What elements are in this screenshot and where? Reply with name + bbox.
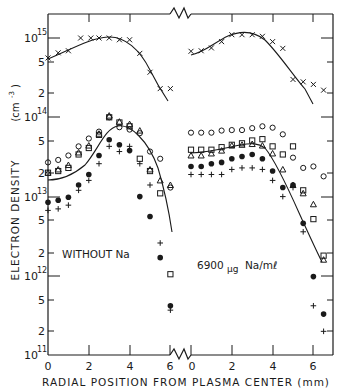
data-point [250,126,255,131]
data-point [219,128,224,133]
data-point [280,152,285,157]
data-point [311,82,316,87]
data-point [300,229,306,235]
data-point [188,164,194,170]
data-point [127,144,133,150]
data-point [66,153,71,158]
y-axis-title: ELECTRON DENSITY [9,160,21,281]
data-point [270,125,275,130]
data-point [239,127,244,132]
data-markers [45,32,327,334]
svg-text:10: 10 [24,111,38,124]
data-point [76,182,82,188]
series-right-open-triangle [188,141,327,262]
data-point [199,130,204,135]
svg-text:5: 5 [38,135,45,148]
data-point [158,86,163,91]
data-point [76,144,81,149]
data-point [229,167,235,173]
data-point [260,124,265,129]
svg-text:μg: μg [227,264,238,274]
data-point [117,149,123,155]
svg-text:10: 10 [24,191,38,204]
data-point [219,160,225,166]
data-point [168,86,173,91]
svg-text:2: 2 [229,360,236,373]
data-point [45,208,51,214]
data-point [78,36,83,41]
data-point [158,191,163,196]
data-point [310,201,316,207]
x-axis-title: RADIAL POSITION FROM PLASMA CENTER (mm) [42,376,330,388]
data-point [86,178,92,184]
data-point [270,39,275,44]
data-point [290,144,295,149]
data-point [96,161,102,167]
svg-text:2: 2 [38,325,45,338]
svg-text:11: 11 [37,345,47,354]
data-point [86,172,92,178]
svg-text:10: 10 [24,349,38,362]
data-point [157,255,163,261]
data-point [270,144,275,149]
svg-text:6: 6 [310,360,317,373]
series-left-plus [45,144,173,313]
data-point [301,79,306,84]
data-point [301,165,306,170]
svg-text:5: 5 [38,56,45,69]
svg-text:5: 5 [38,294,45,307]
data-point [280,166,286,172]
data-point [188,172,194,178]
svg-text:Na/mℓ: Na/mℓ [245,259,277,271]
data-point [45,199,51,205]
data-point [106,137,112,143]
data-point [66,194,72,200]
series-left-open-triangle [45,113,173,188]
svg-text:0: 0 [189,360,196,373]
svg-text:6: 6 [167,360,174,373]
svg-text:): ) [10,84,21,88]
data-point [290,155,295,160]
svg-text:4: 4 [270,360,277,373]
data-point [198,152,204,158]
data-point [55,206,61,212]
data-point [209,130,214,135]
svg-text:12: 12 [37,266,47,275]
svg-text:10: 10 [24,32,38,45]
svg-text:-3: -3 [8,91,16,98]
svg-text:10: 10 [24,270,38,283]
data-point [260,167,266,173]
series-right-x-marker [189,32,327,92]
data-point [117,142,123,148]
svg-text:ELECTRON DENSITY: ELECTRON DENSITY [9,160,21,281]
data-point [239,165,245,171]
data-point [249,165,255,171]
data-point [168,307,174,313]
data-point [65,162,71,168]
data-point [158,156,163,161]
data-point [55,197,61,203]
svg-text:5: 5 [38,214,45,227]
data-point [209,172,215,178]
data-point [86,136,91,141]
data-point [260,137,265,142]
svg-text:2: 2 [38,247,45,260]
svg-text:(cm: (cm [10,102,21,121]
data-point [311,274,317,280]
data-point [280,46,285,51]
data-point [88,36,93,41]
data-point [137,156,142,161]
right-panel-annotation: 6900 μg Na/mℓ [197,259,277,274]
left-panel-annotation: WITHOUT Na [62,248,130,260]
data-point [76,188,82,194]
data-point [321,329,327,335]
data-point [66,202,72,208]
series-left-filled-circle [45,137,173,309]
y-axis-units: (cm -3 ) [8,84,21,122]
x-tick-labels: 0 2 4 6 0 2 4 6 [45,360,317,373]
data-point [280,132,285,137]
data-point [157,177,163,183]
data-point [209,161,215,167]
data-point [198,172,204,178]
svg-text:2: 2 [38,167,45,180]
